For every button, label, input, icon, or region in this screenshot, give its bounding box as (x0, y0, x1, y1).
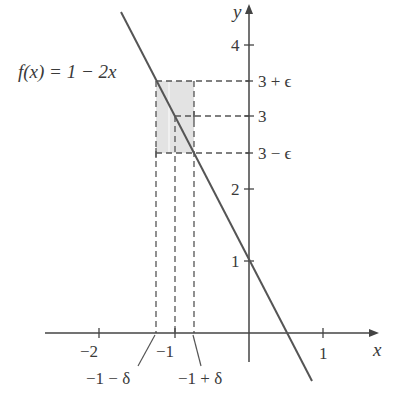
label-minus1-minus-delta: −1 − δ (86, 370, 130, 387)
x-tick-label-1: 1 (319, 345, 328, 362)
label-3: 3 (258, 108, 267, 125)
function-label-text: f(x) = 1 − 2x (18, 61, 116, 82)
label-3-minus-epsilon: 3 − ϵ (258, 145, 291, 162)
x-tick-label-minus1: −1 (156, 343, 174, 360)
y-tick-label-2: 2 (231, 181, 240, 198)
label-minus1-plus-delta: −1 + δ (178, 370, 222, 387)
y-tick-label-1: 1 (231, 253, 240, 270)
leader-line-right (193, 335, 201, 366)
x-axis-label: x (373, 340, 381, 359)
function-line (121, 12, 312, 381)
y-axis-arrow-icon (245, 4, 253, 14)
y-tick-label-4: 4 (231, 37, 240, 54)
leader-line-left (138, 335, 155, 366)
x-tick-label-minus2: −2 (80, 343, 98, 360)
y-axis-label: y (233, 2, 241, 21)
function-label: f(x) = 1 − 2x (18, 62, 116, 81)
label-3-plus-epsilon: 3 + ϵ (258, 73, 291, 90)
x-axis-arrow-icon (369, 329, 379, 337)
